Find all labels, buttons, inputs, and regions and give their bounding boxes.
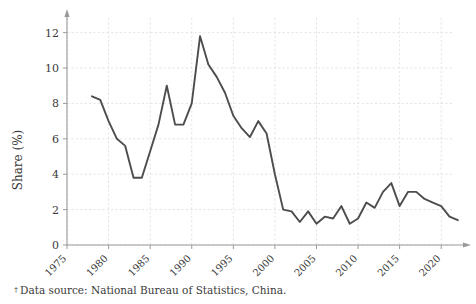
y-tick-label: 8	[52, 97, 59, 110]
x-tick-label: 2010	[334, 253, 360, 279]
x-tick-label: 1995	[209, 253, 235, 279]
x-tick-label: 1980	[84, 253, 110, 279]
y-tick-label: 4	[52, 168, 59, 181]
x-tick-label: 2015	[375, 253, 401, 279]
chart-canvas: 0246810121975198019851990199520002005201…	[0, 0, 476, 304]
y-tick-label: 2	[52, 204, 59, 217]
y-axis-arrow-icon	[64, 9, 69, 17]
x-tick-label: 1975	[43, 253, 69, 279]
y-tick-label: 12	[45, 27, 59, 40]
y-tick-label: 6	[52, 133, 59, 146]
x-tick-label: 2000	[251, 253, 277, 279]
x-tick-label: 2005	[292, 253, 318, 279]
y-tick-label: 0	[52, 239, 59, 252]
x-tick-label: 1985	[126, 253, 152, 279]
x-axis-arrow-icon	[463, 242, 471, 247]
x-tick-label: 1990	[167, 253, 193, 279]
y-tick-label: 10	[45, 62, 59, 75]
x-tick-label: 2020	[417, 253, 443, 279]
share-line-chart: 0246810121975198019851990199520002005201…	[0, 0, 476, 304]
